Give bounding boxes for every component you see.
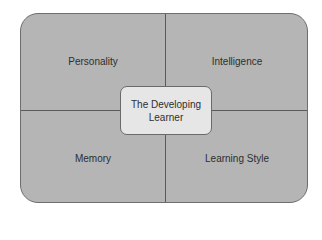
- quadrant-personality: Personality: [21, 56, 165, 67]
- center-node: The Developing Learner: [120, 86, 212, 135]
- center-label-line1: The Developing: [131, 98, 201, 111]
- quadrant-learning-style: Learning Style: [165, 153, 308, 164]
- center-label-line2: Learner: [131, 111, 201, 124]
- quadrant-intelligence: Intelligence: [165, 56, 308, 67]
- quadrant-memory: Memory: [21, 153, 165, 164]
